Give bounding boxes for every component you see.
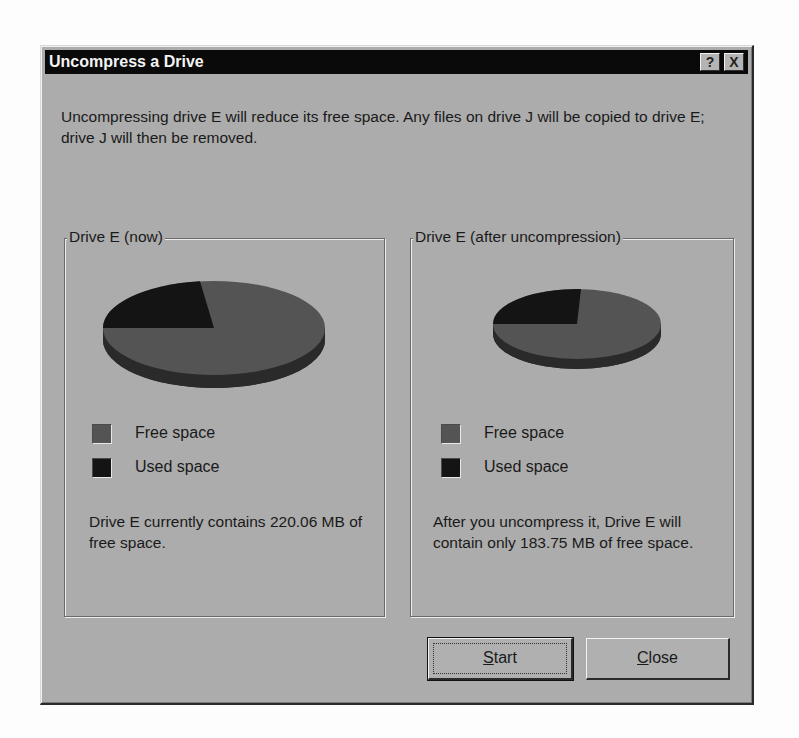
start-button[interactable]: Start [428,638,573,680]
free-space-label: Free space [135,424,215,442]
legend-free-after: Free space [441,424,641,446]
help-button[interactable]: ? [700,53,720,71]
free-space-swatch [441,424,461,444]
used-space-label: Used space [135,458,220,476]
focus-rect [433,643,567,674]
close-accel: C [637,649,649,666]
used-space-label: Used space [484,458,569,476]
title-bar[interactable]: Uncompress a Drive ? X [45,50,748,74]
free-space-swatch [92,424,112,444]
close-label: lose [649,649,678,666]
drive-now-label: Drive E (now) [67,228,165,246]
legend-used-now: Used space [92,458,292,480]
drive-after-pie-chart [491,287,663,371]
drive-after-group: Drive E (after uncompression) Free space… [410,238,734,617]
drive-now-info: Drive E currently contains 220.06 MB of … [89,511,369,553]
legend-used-after: Used space [441,458,641,480]
drive-now-pie-chart [101,279,327,391]
drive-after-info: After you uncompress it, Drive E will co… [433,511,733,553]
close-icon: X [729,54,738,70]
free-space-label: Free space [484,424,564,442]
uncompress-dialog: Uncompress a Drive ? X Uncompressing dri… [40,45,754,705]
legend-free-now: Free space [92,424,292,446]
used-space-swatch [92,458,112,478]
drive-now-group: Drive E (now) Free space Used space Driv… [64,238,385,617]
window-title: Uncompress a Drive [49,53,204,71]
used-space-swatch [441,458,461,478]
close-title-button[interactable]: X [724,53,744,71]
drive-after-label: Drive E (after uncompression) [413,228,623,246]
close-button[interactable]: Close [586,638,730,680]
help-icon: ? [706,54,715,70]
description-text: Uncompressing drive E will reduce its fr… [61,106,741,148]
